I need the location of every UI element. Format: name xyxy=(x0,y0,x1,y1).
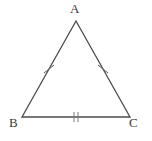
tick-ac-1 xyxy=(98,65,108,73)
tick-mark-side-ac xyxy=(98,65,108,73)
triangle-outline xyxy=(22,21,130,117)
vertex-label-b: B xyxy=(9,116,18,129)
vertex-label-a: A xyxy=(70,2,79,15)
triangle-figure: A B C xyxy=(0,0,152,141)
tick-mark-side-ab xyxy=(44,65,54,73)
tick-ab-1 xyxy=(44,65,54,73)
vertex-label-c: C xyxy=(129,116,138,129)
